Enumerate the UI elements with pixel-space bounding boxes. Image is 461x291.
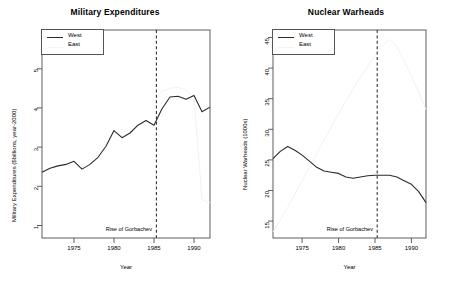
- legend-military: West East: [41, 29, 104, 55]
- y-tick-label-warheads-30: 30: [264, 130, 270, 150]
- x-tick-label-warheads-1975: 1975: [290, 245, 314, 251]
- y-tick-label-warheads-45: 45: [264, 38, 270, 58]
- x-tick-label-military-1975: 1975: [62, 245, 86, 251]
- x-axis-ticks-warheads: [302, 238, 411, 243]
- series-line-west-military: [42, 95, 210, 172]
- x-tick-label-military-1985: 1985: [142, 245, 166, 251]
- y-tick-label-warheads-25: 25: [264, 160, 270, 180]
- legend-swatch-west: [47, 37, 63, 38]
- panel-military-expenditures: Military Expenditures: [0, 0, 230, 291]
- x-axis-ticks-military: [74, 238, 194, 243]
- y-tick-label-military-2: 2: [33, 187, 39, 207]
- y-tick-label-warheads-40: 40: [264, 69, 270, 89]
- series-line-west-warheads: [273, 147, 426, 203]
- y-tick-label-military-3: 3: [33, 148, 39, 168]
- y-tick-label-military-5: 5: [33, 69, 39, 89]
- legend-swatch-east: [47, 47, 63, 48]
- annotation-gorbachev-warheads: Rise of Gorbachev: [297, 226, 373, 232]
- series-line-east-warheads: [273, 39, 426, 232]
- x-tick-label-military-1990: 1990: [182, 245, 206, 251]
- annotation-gorbachev-military: Rise of Gorbachev: [76, 226, 152, 232]
- x-tick-label-warheads-1990: 1990: [399, 245, 423, 251]
- y-tick-label-military-1: 1: [33, 226, 39, 246]
- legend-label-west: West: [299, 32, 313, 38]
- figure-canvas: Military Expenditures: [0, 0, 461, 291]
- series-line-east-military: [154, 87, 210, 202]
- y-tick-label-warheads-20: 20: [264, 191, 270, 211]
- legend-warheads: West East: [272, 29, 335, 55]
- panel-nuclear-warheads: Nuclear Warheads: [231, 0, 461, 291]
- y-tick-label-military-4: 4: [33, 108, 39, 128]
- y-axis-title-military: Military Expenditures ($billions, year-2…: [11, 109, 17, 222]
- legend-label-east: East: [299, 41, 311, 47]
- x-tick-label-warheads-1985: 1985: [363, 245, 387, 251]
- legend-swatch-east: [278, 47, 294, 48]
- legend-label-west: West: [68, 32, 82, 38]
- y-tick-label-warheads-15: 15: [264, 222, 270, 242]
- y-tick-label-warheads-35: 35: [264, 99, 270, 119]
- x-axis-title-warheads: Year: [273, 264, 426, 270]
- x-tick-label-warheads-1980: 1980: [327, 245, 351, 251]
- legend-swatch-west: [278, 37, 294, 38]
- x-tick-label-military-1980: 1980: [102, 245, 126, 251]
- x-axis-title-military: Year: [42, 264, 210, 270]
- legend-label-east: East: [68, 41, 80, 47]
- y-axis-title-warheads: Nuclear Warheads (1000s): [242, 119, 248, 190]
